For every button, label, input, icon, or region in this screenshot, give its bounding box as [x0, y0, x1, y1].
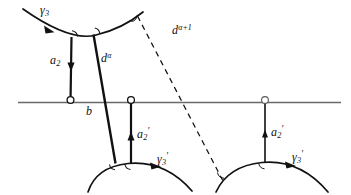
geometry-figure: γ3 a2 dα dα+1 b a2′ a2′ γ3′ γ3′: [0, 0, 351, 195]
label-gamma-3-prime-right: γ3′: [292, 150, 303, 165]
label-a2-prime-left-prime: ′: [147, 126, 149, 136]
label-gamma-3-prime-left: γ3′: [157, 152, 168, 167]
angle-marker-d-alpha-top: [95, 28, 100, 33]
segment-d-alpha-plus-1: [138, 16, 223, 180]
angle-marker-d-alpha-plus-1-bottom: [218, 173, 225, 179]
angle-marker-a2-prime-left-bottom: [125, 164, 131, 170]
segment-a2-direction-arrow: [67, 63, 74, 72]
label-gamma-3-prime-left-prime: ′: [166, 151, 168, 161]
label-d-alpha-plus-1-sup: α+1: [178, 23, 192, 32]
label-b: b: [86, 105, 92, 117]
node-marker-a2-baseline: [67, 97, 74, 104]
label-a2-prime-right-prime: ′: [281, 124, 283, 134]
label-d-alpha: dα: [101, 52, 111, 64]
gamma-3-prime-arc-right: [216, 162, 328, 192]
gamma-3-prime-arc-left: [88, 163, 192, 192]
node-marker-a2-prime-left-baseline: [128, 97, 135, 104]
node-marker-a2-prime-right-baseline: [262, 97, 269, 104]
label-b-base: b: [86, 104, 92, 118]
label-d-alpha-sup: α: [107, 51, 111, 60]
segment-a2-prime-right-direction-arrow: [262, 130, 268, 138]
label-a2-sub: 2: [56, 59, 60, 68]
label-gamma-3-top: γ3: [40, 4, 49, 18]
angle-marker-a2-prime-right-bottom: [259, 164, 265, 169]
label-a2: a2: [50, 54, 60, 68]
label-a2-prime-left: a2′: [137, 127, 149, 142]
label-d-alpha-plus-1: dα+1: [172, 24, 192, 36]
label-gamma-3-top-sub: 3: [45, 9, 49, 18]
label-gamma-3-prime-right-prime: ′: [301, 149, 303, 159]
label-a2-prime-right: a2′: [271, 125, 283, 140]
segment-a2-prime-left-direction-arrow: [128, 132, 135, 141]
